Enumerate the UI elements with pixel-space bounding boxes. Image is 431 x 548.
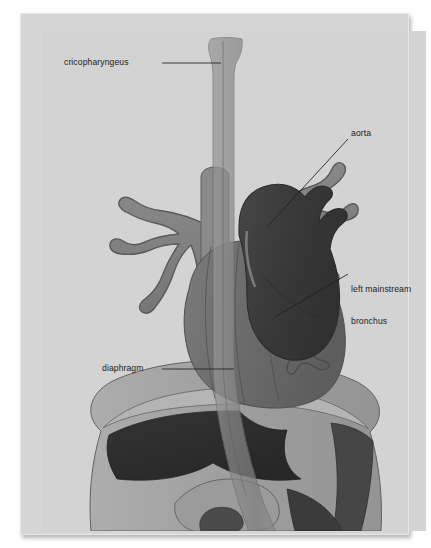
label-aorta: aorta — [351, 128, 371, 139]
label-left-mainstream-bronchus: left mainstream bronchus — [351, 263, 411, 347]
label-bronchus-line2: bronchus — [351, 316, 411, 327]
illustration-root: cricopharyngeus aorta left mainstream br… — [0, 0, 431, 548]
illustration-canvas: cricopharyngeus aorta left mainstream br… — [20, 13, 409, 535]
aorta — [239, 184, 347, 360]
label-diaphragm: diaphragm — [102, 363, 144, 374]
label-bronchus-line1: left mainstream — [351, 284, 411, 295]
label-cricopharyngeus: cricopharyngeus — [64, 57, 129, 68]
aorta-group — [239, 184, 347, 360]
